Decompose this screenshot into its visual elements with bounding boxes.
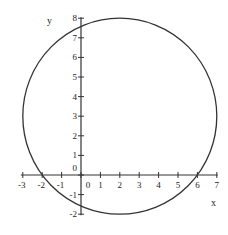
y-tick-label: 6 [73,52,78,62]
y-tick-label: 5 [73,72,78,82]
x-tick-label: 5 [176,180,181,190]
x-tick-label: -3 [18,180,26,190]
y-tick-label: 2 [73,131,78,141]
y-tick-label: 4 [73,92,78,102]
x-tick-label: 3 [137,180,142,190]
y-tick-label: -1 [70,190,78,200]
x-tick-label: 6 [195,180,200,190]
x-tick-label: 4 [156,180,161,190]
y-tick-label: 0 [73,163,78,173]
x-tick-label: 1 [98,180,103,190]
y-tick-label: 3 [73,111,78,121]
x-axis: -3-2-112345670 [18,172,220,190]
x-tick-label: -2 [37,180,45,190]
x-tick-label: 2 [118,180,123,190]
y-tick-label: 1 [73,150,78,160]
x-tick-label: 0 [86,180,91,190]
y-axis: -2-1012345678 [70,13,85,219]
y-axis-title: y [47,15,52,26]
x-tick-label: 7 [215,180,220,190]
circle-plot: -3-2-112345670 -2-1012345678 x y [0,0,228,235]
y-tick-label: 7 [73,33,78,43]
y-tick-label: 8 [73,13,78,23]
x-axis-title: x [211,197,216,208]
x-tick-label: -1 [57,180,65,190]
y-tick-label: -2 [70,209,78,219]
